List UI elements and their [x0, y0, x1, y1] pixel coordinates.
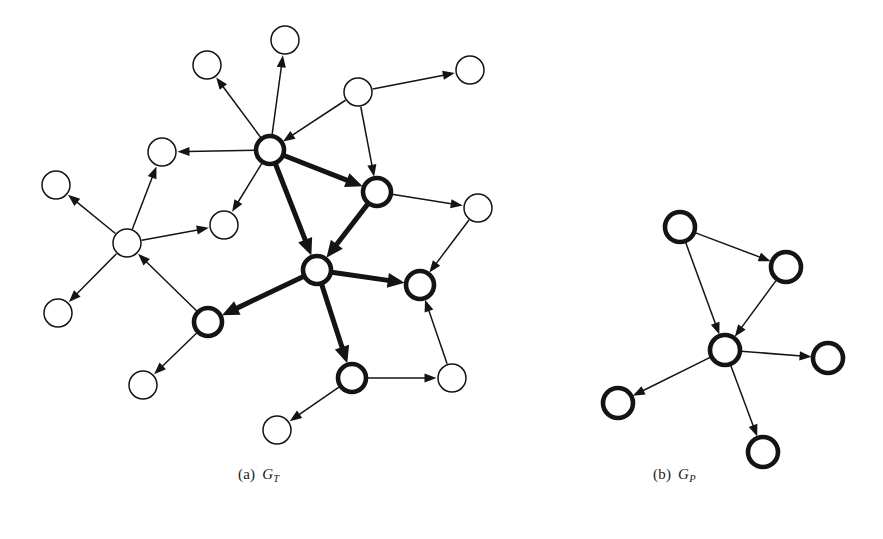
- graph-node: [263, 416, 291, 444]
- graph-node-bold: [665, 212, 695, 242]
- graph-edge-bold: [332, 272, 405, 288]
- graph-canvas: [0, 0, 883, 539]
- caption-panel-b: (b)GP: [653, 466, 696, 484]
- graph-edge: [216, 77, 261, 138]
- graph-edge: [741, 351, 812, 360]
- caption-b-symbol: G: [671, 466, 689, 482]
- graph-edge: [290, 387, 340, 422]
- graph-node-bold: [603, 388, 633, 418]
- graph-node: [148, 138, 176, 166]
- graph-node: [271, 26, 299, 54]
- graph-edge: [429, 220, 469, 273]
- graph-edge: [283, 100, 346, 141]
- graph-node: [210, 211, 238, 239]
- graph-edge: [633, 357, 711, 396]
- graph-node-bold: [748, 437, 778, 467]
- graph-edge: [68, 195, 115, 234]
- nodes-layer: [42, 26, 843, 467]
- caption-a-symbol: G: [255, 466, 273, 482]
- graph-edge-bold: [222, 276, 303, 315]
- graph-node: [464, 194, 492, 222]
- graph-edge: [232, 163, 262, 212]
- graph-node-bold: [406, 271, 434, 299]
- graph-edge: [735, 280, 777, 337]
- graph-edge: [69, 254, 117, 302]
- graph-edge-bold: [326, 204, 367, 258]
- graph-node: [44, 299, 72, 327]
- graph-edge: [272, 55, 286, 135]
- graph-node: [344, 78, 372, 106]
- graph-node: [113, 229, 141, 257]
- figure-container: [0, 0, 883, 539]
- graph-edge: [731, 365, 758, 437]
- graph-edge: [425, 300, 448, 364]
- graph-edge: [367, 373, 437, 382]
- graph-node-bold: [194, 308, 222, 336]
- graph-node: [42, 171, 70, 199]
- graph-node-bold: [363, 178, 391, 206]
- graph-node: [438, 364, 466, 392]
- graph-edge: [154, 332, 197, 374]
- graph-edge-bold: [322, 284, 350, 363]
- graph-node-bold: [256, 136, 284, 164]
- graph-edge: [392, 194, 463, 208]
- graph-edge-bold: [275, 164, 312, 256]
- graph-node: [456, 56, 484, 84]
- caption-a-subscript: T: [273, 473, 279, 484]
- graph-edge: [138, 254, 197, 312]
- caption-b-index: (b): [653, 466, 671, 482]
- graph-edge: [132, 166, 156, 229]
- caption-b-subscript: P: [689, 473, 696, 484]
- graph-edge: [178, 147, 256, 156]
- graph-edge: [373, 71, 455, 89]
- graph-edge: [142, 225, 209, 240]
- graph-node: [193, 51, 221, 79]
- graph-node-bold: [303, 256, 331, 284]
- graph-edge-bold: [284, 155, 363, 187]
- caption-panel-a: (a)GT: [238, 466, 279, 484]
- graph-node-bold: [338, 364, 366, 392]
- graph-node-bold: [771, 252, 801, 282]
- graph-edge: [695, 233, 771, 262]
- graph-node-bold: [813, 343, 843, 373]
- graph-edge: [361, 107, 377, 177]
- graph-edge: [686, 242, 720, 334]
- graph-node-bold: [710, 335, 740, 365]
- graph-node: [129, 371, 157, 399]
- caption-a-index: (a): [238, 466, 255, 482]
